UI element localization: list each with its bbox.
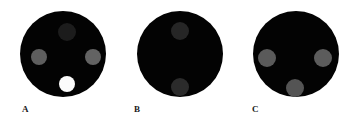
panel-label-a: A [22, 105, 29, 114]
disc-c-spot-bottom [286, 79, 304, 97]
disc-a-spot-bottom [59, 76, 75, 92]
panel-label-b: B [134, 105, 140, 114]
panel-c: C [240, 0, 360, 132]
figure-canvas: A B C [0, 0, 360, 132]
disc-a-spot-top [58, 23, 76, 41]
disc-c-spot-right [314, 49, 332, 67]
disc-a-spot-left [31, 49, 47, 65]
disc-b-spot-top [171, 22, 189, 40]
disc-a-spot-right [85, 49, 101, 65]
panel-b: B [120, 0, 240, 132]
disc-c-spot-left [258, 49, 276, 67]
panel-a: A [0, 0, 120, 132]
panel-label-c: C [252, 105, 259, 114]
disc-b-spot-bottom [171, 78, 189, 96]
